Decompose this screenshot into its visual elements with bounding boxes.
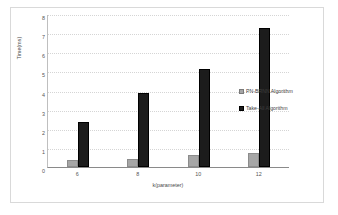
- legend-item-label: PN-BRNN Algorithm: [246, 88, 293, 94]
- x-axis-tick-12: 12: [235, 170, 283, 180]
- chart-legend: PN-BRNN AlgorithmTake-All Algorithm: [239, 88, 323, 122]
- y-axis-tick-1: 1: [29, 149, 45, 155]
- y-axis-title: Time(ms): [16, 18, 28, 78]
- chart-frame: Time(ms) 876543210 681012 k(parameter) P…: [10, 7, 324, 203]
- y-axis-tick-7: 7: [29, 34, 45, 40]
- chart-plot-wrapper: Time(ms) 876543210 681012 k(parameter) P…: [11, 8, 325, 204]
- legend-swatch-icon: [239, 106, 244, 111]
- y-axis-title-label: Time(ms): [16, 33, 22, 63]
- bar-group-8: [114, 15, 162, 167]
- y-axis-tick-labels: 876543210: [29, 12, 45, 172]
- bar-6-series0[interactable]: [67, 160, 78, 167]
- y-axis-tick-2: 2: [29, 130, 45, 136]
- x-axis-title: k(parameter): [47, 182, 289, 188]
- x-axis-tick-10: 10: [174, 170, 222, 180]
- bar-6-series1[interactable]: [78, 122, 89, 167]
- legend-item-0[interactable]: PN-BRNN Algorithm: [239, 88, 323, 94]
- legend-item-1[interactable]: Take-All Algorithm: [239, 105, 323, 111]
- legend-item-label: Take-All Algorithm: [246, 105, 288, 111]
- y-axis-tick-6: 6: [29, 53, 45, 59]
- bar-10-series1[interactable]: [199, 69, 210, 167]
- x-axis-tick-8: 8: [114, 170, 162, 180]
- bar-group-6: [54, 15, 102, 167]
- y-axis-tick-0: 0: [29, 168, 45, 174]
- y-axis-tick-8: 8: [29, 15, 45, 21]
- bar-12-series0[interactable]: [248, 153, 259, 167]
- y-axis-tick-4: 4: [29, 92, 45, 98]
- x-axis-tick-6: 6: [53, 170, 101, 180]
- bar-8-series1[interactable]: [138, 93, 149, 167]
- bar-8-series0[interactable]: [127, 159, 138, 167]
- bar-group-10: [175, 15, 223, 167]
- bar-10-series0[interactable]: [188, 155, 199, 167]
- y-axis-tick-5: 5: [29, 72, 45, 78]
- x-axis-tick-labels: 681012: [47, 170, 289, 180]
- y-axis-tick-3: 3: [29, 111, 45, 117]
- legend-swatch-icon: [239, 89, 244, 94]
